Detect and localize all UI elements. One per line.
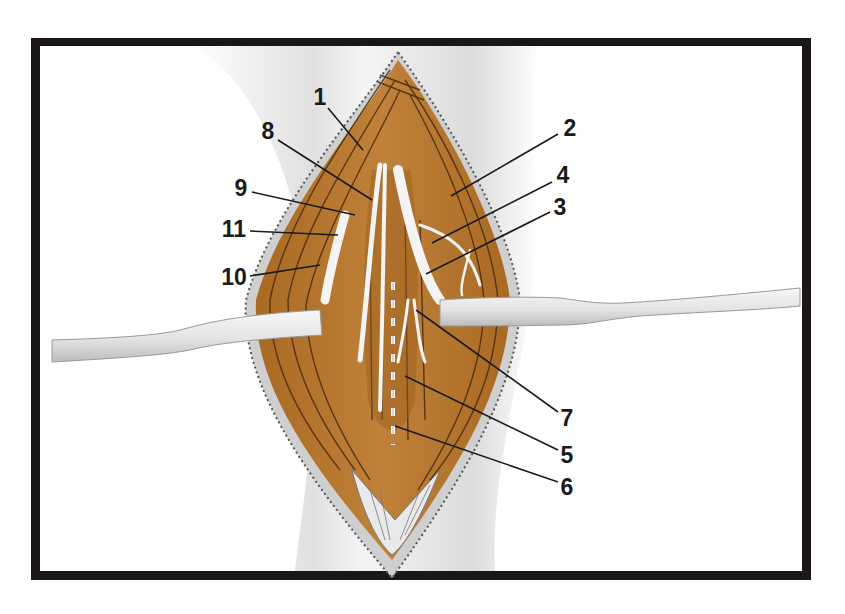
label-10: 10 <box>221 266 247 289</box>
anatomy-illustration <box>0 0 845 614</box>
label-1: 1 <box>314 86 327 109</box>
label-3: 3 <box>554 196 567 219</box>
label-2: 2 <box>564 117 577 140</box>
label-6: 6 <box>561 476 574 499</box>
label-4: 4 <box>557 164 570 187</box>
label-9: 9 <box>235 177 248 200</box>
label-5: 5 <box>561 444 574 467</box>
label-11: 11 <box>222 218 246 241</box>
label-8: 8 <box>262 120 275 143</box>
label-7: 7 <box>561 407 574 430</box>
